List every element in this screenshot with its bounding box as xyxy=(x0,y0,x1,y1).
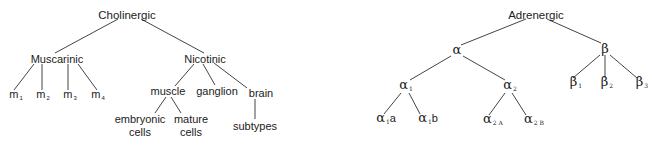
node-alpha2b: α2 B xyxy=(524,113,544,129)
node-alpha1: α1 xyxy=(399,79,413,95)
node-nicotinic: Nicotinic xyxy=(184,53,226,65)
node-muscle: muscle xyxy=(151,85,186,97)
node-beta: β xyxy=(601,43,609,55)
node-beta2: β2 xyxy=(601,76,613,92)
node-ganglion: ganglion xyxy=(196,85,238,97)
node-alpha1b: α1b xyxy=(418,112,438,128)
node-cholinergic: Cholinergic xyxy=(98,9,156,21)
node-mature-cells: mature cells xyxy=(174,113,208,139)
node-alpha1a: α1a xyxy=(376,112,396,128)
node-beta1: β1 xyxy=(570,76,582,92)
node-muscarinic: Muscarinic xyxy=(31,53,84,65)
node-adrenergic: Adrenergic xyxy=(508,9,564,21)
node-beta3: β3 xyxy=(636,76,648,92)
node-alpha2a: α2 A xyxy=(483,113,503,129)
node-brain: brain xyxy=(249,87,273,99)
node-m4: m4 xyxy=(91,88,105,104)
node-alpha2: α2 xyxy=(503,79,517,95)
node-subtypes: subtypes xyxy=(233,120,277,132)
node-alpha: α xyxy=(453,44,462,56)
node-m3: m3 xyxy=(63,88,77,104)
node-m2: m2 xyxy=(36,88,50,104)
node-embryonic-cells: embryonic cells xyxy=(115,113,166,139)
tree-edges xyxy=(0,0,652,148)
node-m1: m1 xyxy=(9,88,23,104)
